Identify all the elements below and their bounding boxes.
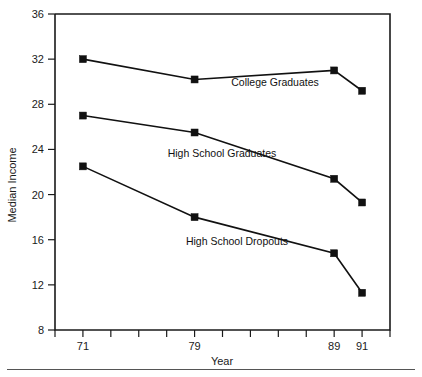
chart-figure: 8 12 16 20 24 28 32 36 71 79 89 91: [0, 0, 422, 377]
y-tick-label-32: 32: [32, 53, 44, 65]
data-point-dropout-71: [79, 163, 86, 170]
y-tick-label-24: 24: [32, 143, 44, 155]
annotation-high-school-graduates: High School Graduates: [168, 147, 277, 159]
footer-divider: [7, 369, 415, 370]
x-axis-title: Year: [211, 355, 234, 367]
y-tick-label-16: 16: [32, 234, 44, 246]
data-point-hsgrad-71: [79, 112, 86, 119]
plot-frame: [55, 14, 390, 330]
data-point-dropout-91: [359, 289, 366, 296]
data-point-college-91: [359, 87, 366, 94]
x-tick-label-91: 91: [356, 340, 368, 352]
series-line-college-graduates: [83, 59, 362, 91]
y-tick-label-20: 20: [32, 189, 44, 201]
y-tick-label-8: 8: [38, 324, 44, 336]
y-tick-label-28: 28: [32, 98, 44, 110]
series-line-high-school-graduates: [83, 116, 362, 203]
data-point-college-89: [331, 67, 338, 74]
series-college-graduates: [79, 56, 365, 95]
data-point-dropout-79: [191, 214, 198, 221]
data-point-hsgrad-91: [359, 199, 366, 206]
y-axis-title: Median Income: [6, 147, 18, 222]
annotation-college-graduates: College Graduates: [231, 76, 319, 88]
series-high-school-dropouts: [79, 163, 365, 296]
data-point-hsgrad-89: [331, 175, 338, 182]
series-high-school-graduates: [79, 112, 365, 206]
x-tick-label-71: 71: [77, 340, 89, 352]
y-tick-label-12: 12: [32, 279, 44, 291]
data-point-college-79: [191, 76, 198, 83]
annotation-high-school-dropouts: High School Dropouts: [186, 235, 288, 247]
x-tick-label-79: 79: [188, 340, 200, 352]
data-point-hsgrad-79: [191, 129, 198, 136]
data-point-college-71: [79, 56, 86, 63]
x-axis-ticks: [55, 330, 390, 337]
x-tick-label-89: 89: [328, 340, 340, 352]
data-point-dropout-89: [331, 250, 338, 257]
y-tick-label-36: 36: [32, 8, 44, 20]
line-chart-canvas: 8 12 16 20 24 28 32 36 71 79 89 91: [0, 0, 422, 377]
y-axis-ticks: [48, 14, 55, 330]
series-line-high-school-dropouts: [83, 166, 362, 292]
